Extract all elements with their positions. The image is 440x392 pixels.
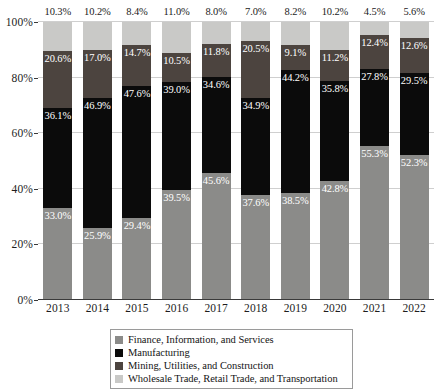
- bar-segment-label: 17.0%: [84, 50, 111, 63]
- bar-stack: 12.4%27.8%55.3%: [360, 22, 389, 300]
- x-tick-label-2022: 2022: [394, 302, 434, 320]
- bar-segment[interactable]: 29.5%: [400, 73, 429, 155]
- bar-segment-label: 10.3%: [44, 6, 71, 17]
- bar-segment[interactable]: [83, 22, 112, 50]
- bar-stack: 11.2%35.8%42.8%: [320, 22, 349, 300]
- bar-segment[interactable]: 33.0%: [43, 208, 72, 300]
- bar-column-2020[interactable]: 10.2%11.2%35.8%42.8%: [315, 22, 355, 300]
- bar-segment[interactable]: 55.3%: [360, 146, 389, 300]
- y-tick-label: 100%: [0, 16, 33, 28]
- bar-segment-label: 11.2%: [322, 50, 348, 63]
- y-tick-label: 60%: [0, 127, 33, 139]
- bar-segment[interactable]: 9.1%: [281, 45, 310, 70]
- legend-item-2[interactable]: Mining, Utilities, and Construction: [115, 359, 348, 372]
- legend-swatch-icon: [115, 336, 123, 344]
- bar-segment[interactable]: 34.6%: [202, 77, 231, 173]
- bar-segment-label: 27.8%: [361, 69, 388, 82]
- bar-segment[interactable]: 37.6%: [241, 195, 270, 300]
- y-tick-mark: [34, 78, 38, 79]
- bar-stack: 20.6%36.1%33.0%: [43, 22, 72, 300]
- bar-segment-label: 46.9%: [84, 98, 111, 111]
- legend-label: Finance, Information, and Services: [128, 334, 274, 345]
- bar-segment-label: 10.2%: [322, 6, 349, 17]
- bar-column-2013[interactable]: 10.3%20.6%36.1%33.0%: [38, 22, 78, 300]
- x-tick-label-2016: 2016: [157, 302, 197, 320]
- bar-segment-label: 39.5%: [163, 190, 190, 203]
- bar-segment-label: 8.2%: [285, 6, 306, 17]
- bar-segment[interactable]: 34.9%: [241, 98, 270, 195]
- bar-segment-label: 7.0%: [245, 6, 266, 17]
- bar-column-2019[interactable]: 8.2%9.1%44.2%38.5%: [276, 22, 316, 300]
- bar-segment-label: 47.6%: [124, 86, 151, 99]
- bar-segment[interactable]: 12.4%: [360, 35, 389, 69]
- bar-segment[interactable]: 39.0%: [162, 82, 191, 190]
- x-tick-label-2015: 2015: [117, 302, 157, 320]
- bar-segment[interactable]: 17.0%: [83, 50, 112, 97]
- bar-column-2022[interactable]: 5.6%12.6%29.5%52.3%: [394, 22, 434, 300]
- bar-segment[interactable]: [162, 22, 191, 53]
- bar-segment-label: 42.8%: [322, 181, 349, 194]
- bar-segment[interactable]: 29.4%: [122, 218, 151, 300]
- bar-stack: 11.8%34.6%45.6%: [202, 22, 231, 300]
- bar-segment-label: 10.2%: [84, 6, 111, 17]
- x-tick-label-2018: 2018: [236, 302, 276, 320]
- bar-segment[interactable]: [360, 22, 389, 35]
- bar-column-2015[interactable]: 8.4%14.7%47.6%29.4%: [117, 22, 157, 300]
- bar-series-container: 10.3%20.6%36.1%33.0%10.2%17.0%46.9%25.9%…: [38, 22, 434, 300]
- y-tick-label: 40%: [0, 183, 33, 195]
- bar-segment[interactable]: 10.5%: [162, 53, 191, 82]
- bar-segment[interactable]: 38.5%: [281, 193, 310, 300]
- bar-segment[interactable]: [241, 22, 270, 41]
- bar-segment-label: 8.0%: [205, 6, 226, 17]
- x-tick-label-2014: 2014: [78, 302, 118, 320]
- bar-column-2018[interactable]: 7.0%20.5%34.9%37.6%: [236, 22, 276, 300]
- bar-segment-label: 9.1%: [285, 45, 306, 58]
- bar-segment[interactable]: 20.5%: [241, 41, 270, 98]
- bar-segment[interactable]: 12.6%: [400, 38, 429, 73]
- bar-segment[interactable]: 36.1%: [43, 108, 72, 208]
- bar-column-2014[interactable]: 10.2%17.0%46.9%25.9%: [78, 22, 118, 300]
- bar-segment[interactable]: 20.6%: [43, 51, 72, 108]
- bar-segment[interactable]: [320, 22, 349, 50]
- bar-segment[interactable]: 25.9%: [83, 228, 112, 300]
- bar-segment[interactable]: 52.3%: [400, 155, 429, 300]
- bar-column-2016[interactable]: 11.0%10.5%39.0%39.5%: [157, 22, 197, 300]
- x-tick-label-2021: 2021: [355, 302, 395, 320]
- bar-segment[interactable]: 35.8%: [320, 81, 349, 181]
- legend-item-0[interactable]: Finance, Information, and Services: [115, 333, 348, 346]
- bar-segment[interactable]: 47.6%: [122, 86, 151, 218]
- x-tick-label-2020: 2020: [315, 302, 355, 320]
- bar-column-2021[interactable]: 4.5%12.4%27.8%55.3%: [355, 22, 395, 300]
- bar-segment[interactable]: [202, 22, 231, 44]
- bar-segment-label: 11.0%: [163, 6, 189, 17]
- bar-segment[interactable]: [122, 22, 151, 45]
- bar-segment-label: 10.5%: [163, 53, 190, 66]
- bar-segment-label: 37.6%: [242, 195, 269, 208]
- legend-item-1[interactable]: Manufacturing: [115, 346, 348, 359]
- bar-segment[interactable]: 11.8%: [202, 44, 231, 77]
- bar-segment-label: 29.4%: [124, 218, 151, 231]
- bar-segment-label: 12.6%: [401, 38, 428, 51]
- bar-segment-label: 34.6%: [203, 77, 230, 90]
- bar-segment[interactable]: 44.2%: [281, 70, 310, 193]
- bar-segment[interactable]: 39.5%: [162, 190, 191, 300]
- bar-segment-label: 20.5%: [242, 41, 269, 54]
- legend-item-3[interactable]: Wholesale Trade, Retail Trade, and Trans…: [115, 372, 348, 385]
- bar-segment[interactable]: [400, 22, 429, 38]
- bar-segment[interactable]: 46.9%: [83, 98, 112, 228]
- bar-segment[interactable]: 45.6%: [202, 173, 231, 300]
- bar-segment[interactable]: 27.8%: [360, 69, 389, 146]
- legend-label: Mining, Utilities, and Construction: [128, 360, 274, 371]
- bar-stack: 17.0%46.9%25.9%: [83, 22, 112, 300]
- bar-segment[interactable]: 14.7%: [122, 45, 151, 86]
- bar-segment-label: 45.6%: [203, 173, 230, 186]
- bar-segment[interactable]: [281, 22, 310, 45]
- legend-label: Wholesale Trade, Retail Trade, and Trans…: [128, 373, 338, 384]
- bar-segment[interactable]: [43, 22, 72, 51]
- bar-segment[interactable]: 42.8%: [320, 181, 349, 300]
- bar-column-2017[interactable]: 8.0%11.8%34.6%45.6%: [196, 22, 236, 300]
- plot-area: 10.3%20.6%36.1%33.0%10.2%17.0%46.9%25.9%…: [38, 22, 434, 300]
- bar-segment[interactable]: 11.2%: [320, 50, 349, 81]
- bar-segment-label: 14.7%: [124, 45, 151, 58]
- legend-swatch-icon: [115, 375, 123, 383]
